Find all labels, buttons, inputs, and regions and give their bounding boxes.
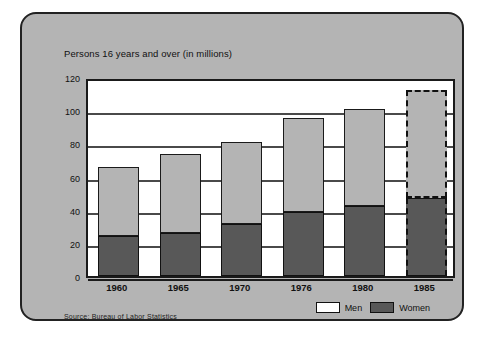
bar-segment-women-1960[interactable] [98,236,139,276]
y-tick-label-40: 40 [54,207,80,217]
bar-segment-men-1980[interactable] [344,109,385,206]
bar-group-1965[interactable] [160,154,201,276]
bar-segment-women-1985[interactable] [406,198,447,276]
x-tick-label-1960: 1960 [106,282,127,293]
chart-card: Persons 16 years and over (in millions) … [20,12,464,321]
source-note: Source: Bureau of Labor Statistics [64,313,177,320]
x-tick-label-1985: 1985 [414,282,435,293]
legend-item-men: Men [316,302,363,313]
bar-segment-women-1965[interactable] [160,233,201,276]
bar-group-1976[interactable] [283,118,324,276]
bar-segment-men-1960[interactable] [98,167,139,237]
y-tick-label-0: 0 [54,273,80,283]
bar-segment-men-1965[interactable] [160,154,201,233]
y-axis: 020406080100120 [52,79,80,278]
bar-segment-men-1976[interactable] [283,118,324,212]
bar-segment-men-1985[interactable] [406,90,447,198]
y-tick-label-20: 20 [54,240,80,250]
legend-item-women: Women [370,302,430,313]
bar-segment-men-1970[interactable] [221,142,262,224]
bar-group-1985[interactable] [406,90,447,276]
bar-group-1960[interactable] [98,167,139,276]
bar-segment-women-1970[interactable] [221,224,262,276]
bar-segment-women-1976[interactable] [283,212,324,276]
x-tick-label-1970: 1970 [229,282,250,293]
chart-screenshot: Persons 16 years and over (in millions) … [0,0,484,338]
plot-area [86,79,455,278]
y-tick-label-80: 80 [54,140,80,150]
chart-legend: Men Women [316,302,430,313]
legend-swatch-women-icon [370,302,394,313]
x-tick-label-1965: 1965 [168,282,189,293]
y-tick-label-60: 60 [54,174,80,184]
y-tick-label-100: 100 [54,107,80,117]
gridline-0 [88,279,453,281]
legend-label-women: Women [399,303,430,313]
x-axis: 196019651970197619801985 [86,282,455,298]
bar-group-1980[interactable] [344,109,385,276]
bar-group-1970[interactable] [221,142,262,276]
bar-series [88,81,453,276]
x-tick-label-1976: 1976 [291,282,312,293]
y-tick-label-120: 120 [54,74,80,84]
legend-swatch-men-icon [316,302,340,313]
x-tick-label-1980: 1980 [352,282,373,293]
legend-label-men: Men [345,303,363,313]
chart-title: Persons 16 years and over (in millions) [64,48,232,59]
bar-segment-women-1980[interactable] [344,206,385,276]
